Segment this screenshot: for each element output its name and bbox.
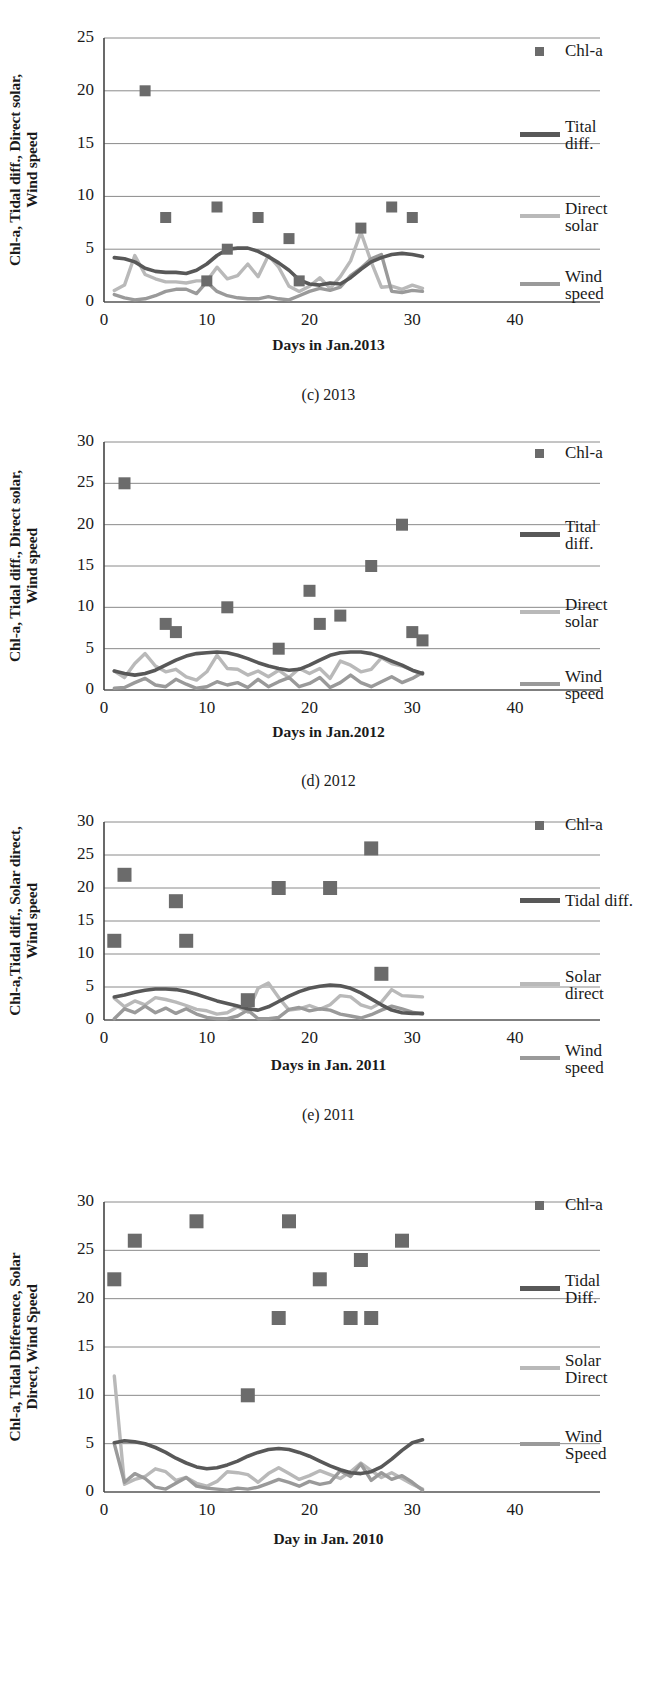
legend-item-marker[interactable]: Chl-a [520, 42, 603, 59]
legend-line-swatch-icon [520, 1052, 560, 1066]
line-swatch-icon [520, 1056, 560, 1060]
legend-label-line1: Chl-a [565, 1195, 603, 1214]
legend-item-wind[interactable]: Windspeed [520, 668, 604, 703]
legend-label-line1: Solar [565, 967, 601, 986]
data-point-marker [365, 560, 377, 572]
legend-item-tidal[interactable]: Titaldiff. [520, 518, 597, 553]
legend-label: Directsolar [565, 596, 607, 631]
data-point-marker [212, 202, 223, 213]
legend-line-swatch-icon [520, 210, 560, 224]
line-swatch-icon [520, 898, 560, 903]
data-point-marker [374, 967, 388, 981]
data-point-marker [221, 601, 233, 613]
legend-line-swatch-icon [520, 1438, 560, 1452]
legend-line-swatch-icon [520, 606, 560, 620]
legend-label-line1: Chl-a [565, 815, 603, 834]
legend-line-swatch-icon [520, 128, 560, 142]
data-point-marker [284, 233, 295, 244]
line-swatch-icon [520, 282, 560, 286]
series-line-solar [114, 1376, 422, 1489]
data-point-marker [118, 868, 132, 882]
legend-label-line1: Chl-a [565, 41, 603, 60]
legend-item-tidal[interactable]: Titaldiff. [520, 118, 597, 153]
legend-label-line1: Tital [565, 117, 597, 136]
legend-item-marker[interactable]: Chl-a [520, 444, 603, 461]
figure-page: Chl-a, Tidal diff., Direct solar,Wind sp… [0, 0, 657, 1699]
legend-label-line1: Wind [565, 1041, 602, 1060]
line-swatch-icon [520, 982, 560, 986]
line-swatch-icon [520, 610, 560, 614]
legend-label-line2: solar [565, 613, 607, 630]
data-point-marker [140, 85, 151, 96]
data-point-marker [407, 212, 418, 223]
legend-line-swatch-icon [520, 678, 560, 692]
legend-label: Windspeed [565, 668, 604, 703]
legend-item-solar[interactable]: Directsolar [520, 200, 607, 235]
legend-label-line2: diff. [565, 135, 597, 152]
legend-item-solar[interactable]: Directsolar [520, 596, 607, 631]
plot-canvas [0, 380, 657, 760]
legend-item-tidal[interactable]: Tidal diff. [520, 892, 633, 909]
legend-label-line2: speed [565, 285, 604, 302]
legend-label-line1: Tidal [565, 1271, 600, 1290]
data-point-marker [170, 626, 182, 638]
data-point-marker [107, 1272, 121, 1286]
data-point-marker [282, 1214, 296, 1228]
legend-line-swatch-icon [520, 1282, 560, 1296]
legend-marker-swatch-icon [520, 44, 560, 58]
legend-line-swatch-icon [520, 528, 560, 542]
legend-label: Chl-a [565, 42, 603, 59]
legend-label-line1: Wind [565, 267, 602, 286]
data-point-marker [314, 618, 326, 630]
square-marker-icon [535, 47, 544, 56]
legend-line-swatch-icon [520, 894, 560, 908]
data-point-marker [304, 585, 316, 597]
data-point-marker [160, 212, 171, 223]
legend-label: TidalDiff. [565, 1272, 600, 1307]
data-point-marker [417, 634, 429, 646]
data-point-marker [313, 1272, 327, 1286]
legend-item-wind[interactable]: Windspeed [520, 1042, 604, 1077]
legend-item-wind[interactable]: Windspeed [520, 268, 604, 303]
legend-label-line2: Diff. [565, 1289, 600, 1306]
legend-item-solar[interactable]: SolarDirect [520, 1352, 607, 1387]
data-point-marker [222, 244, 233, 255]
legend-label: SolarDirect [565, 1352, 607, 1387]
data-point-marker [323, 881, 337, 895]
plot-canvas [0, 1140, 657, 1699]
data-point-marker [273, 643, 285, 655]
square-marker-icon [535, 821, 544, 830]
legend-item-marker[interactable]: Chl-a [520, 816, 603, 833]
square-marker-icon [535, 449, 544, 458]
chart-panel-2013: Chl-a, Tidal diff., Direct solar,Wind sp… [0, 0, 657, 380]
line-swatch-icon [520, 532, 560, 537]
data-point-marker [355, 223, 366, 234]
legend-item-wind[interactable]: WindSpeed [520, 1428, 607, 1463]
legend-label: Chl-a [565, 1196, 603, 1213]
data-point-marker [272, 1311, 286, 1325]
data-point-marker [272, 881, 286, 895]
legend-line-swatch-icon [520, 978, 560, 992]
data-point-marker [364, 841, 378, 855]
legend-item-marker[interactable]: Chl-a [520, 1196, 603, 1213]
legend-label-line2: solar [565, 217, 607, 234]
line-swatch-icon [520, 1366, 560, 1370]
legend-line-swatch-icon [520, 1362, 560, 1376]
legend-marker-swatch-icon [520, 446, 560, 460]
legend-label: Directsolar [565, 200, 607, 235]
chart-panel-2011: Chl-a,Tidal diff., Solar direct,Wind spe… [0, 760, 657, 1140]
line-swatch-icon [520, 132, 560, 137]
legend-label-line1: Direct [565, 199, 607, 218]
legend-label: Tidal diff. [565, 892, 633, 909]
line-swatch-icon [520, 1286, 560, 1291]
legend-label-line1: Solar [565, 1351, 601, 1370]
data-point-marker [354, 1253, 368, 1267]
legend-label: Chl-a [565, 444, 603, 461]
legend-item-solar[interactable]: Solardirect [520, 968, 604, 1003]
data-point-marker [119, 477, 131, 489]
legend-label-line1: Wind [565, 667, 602, 686]
legend-label-line2: Speed [565, 1445, 607, 1462]
data-point-marker [364, 1311, 378, 1325]
legend-item-tidal[interactable]: TidalDiff. [520, 1272, 600, 1307]
data-point-marker [294, 275, 305, 286]
